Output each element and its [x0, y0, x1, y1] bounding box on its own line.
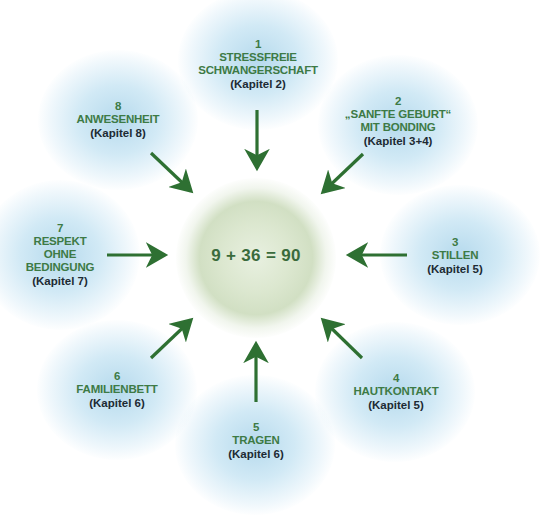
node-1: 1 STRESSFREIE SCHWANGERSCHAFT (Kapitel 2… — [198, 38, 318, 91]
node-chapter: (Kapitel 2) — [198, 78, 318, 91]
node-2: 2 „SANFTE GEBURT“ MIT BONDING (Kapitel 3… — [345, 95, 451, 148]
node-4: 4 HAUTKONTAKT (Kapitel 5) — [353, 372, 438, 412]
node-title-line: MIT BONDING — [345, 121, 451, 134]
node-chapter: (Kapitel 3+4) — [345, 135, 451, 148]
node-chapter: (Kapitel 7) — [26, 275, 94, 288]
node-title-line: OHNE — [26, 248, 94, 261]
node-title-line: TRAGEN — [228, 434, 284, 447]
node-number: 1 — [198, 38, 318, 51]
node-title-line: HAUTKONTAKT — [353, 385, 438, 398]
node-chapter: (Kapitel 5) — [427, 263, 483, 276]
node-title-line: RESPEKT — [26, 235, 94, 248]
arrow-down-left-icon — [323, 154, 363, 192]
node-chapter: (Kapitel 8) — [77, 127, 160, 140]
arrow-down-right-icon — [151, 153, 191, 191]
node-5: 5 TRAGEN (Kapitel 6) — [228, 421, 284, 461]
node-number: 8 — [77, 100, 160, 113]
node-chapter: (Kapitel 5) — [353, 399, 438, 412]
node-chapter: (Kapitel 6) — [76, 397, 157, 410]
node-number: 3 — [427, 236, 483, 249]
node-title-line: BEDINGUNG — [26, 261, 94, 274]
node-6: 6 FAMILIENBETT (Kapitel 6) — [76, 370, 157, 410]
node-title-line: STILLEN — [427, 249, 483, 262]
node-title-line: FAMILIENBETT — [76, 383, 157, 396]
node-number: 5 — [228, 421, 284, 434]
node-title-line: „SANFTE GEBURT“ — [345, 108, 451, 121]
node-title-line: STRESSFREIE — [198, 51, 318, 64]
node-title-line: ANWESENHEIT — [77, 113, 160, 126]
center-equation: 9 + 36 = 90 — [211, 246, 300, 266]
node-8: 8 ANWESENHEIT (Kapitel 8) — [77, 100, 160, 140]
node-number: 7 — [26, 222, 94, 235]
node-number: 6 — [76, 370, 157, 383]
node-number: 4 — [353, 372, 438, 385]
node-chapter: (Kapitel 6) — [228, 448, 284, 461]
arrow-up-left-icon — [323, 320, 362, 358]
node-title-line: SCHWANGERSCHAFT — [198, 64, 318, 77]
node-number: 2 — [345, 95, 451, 108]
node-3: 3 STILLEN (Kapitel 5) — [427, 236, 483, 276]
arrow-up-right-icon — [151, 320, 191, 358]
node-7: 7 RESPEKT OHNE BEDINGUNG (Kapitel 7) — [26, 222, 94, 288]
